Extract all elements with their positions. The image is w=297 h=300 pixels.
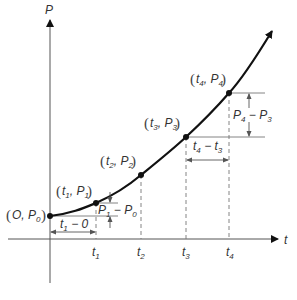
svg-text:t4, P4: t4, P4 <box>196 72 223 88</box>
svg-text:(: ( <box>190 71 195 88</box>
tick-t2: t2 <box>137 245 145 261</box>
x-tick-labels: t1 t2 t3 t4 <box>92 245 234 261</box>
annotation-delta-t1: t1 − 0 <box>51 217 95 233</box>
point-label-p1: ( t1, P1 ) <box>56 183 92 200</box>
tick-t3: t3 <box>182 245 190 261</box>
x-axis-label: t <box>284 233 288 247</box>
annotation-delta-p1: P1 − P0 <box>98 192 137 228</box>
svg-text:(: ( <box>144 115 149 132</box>
svg-text:): ) <box>87 183 92 200</box>
svg-text:): ) <box>221 71 226 88</box>
svg-text:(: ( <box>56 183 61 200</box>
tick-t1: t1 <box>92 245 100 261</box>
svg-text:(: ( <box>6 207 11 224</box>
svg-text:P1 − P0: P1 − P0 <box>98 203 137 219</box>
point-label-p3: ( t3, P3 ) <box>144 115 180 132</box>
svg-text:): ) <box>131 153 136 170</box>
time-position-diagram: P t ( O, P0 ) ( t1, P1 ) ( t2, P2 ) <box>0 0 297 300</box>
svg-text:t1 − 0: t1 − 0 <box>60 217 89 233</box>
tick-t4: t4 <box>226 245 234 261</box>
svg-text:t1, P1: t1, P1 <box>62 184 89 200</box>
point-label-p0: ( O, P0 ) <box>6 207 46 224</box>
svg-text:t3, P3: t3, P3 <box>150 116 177 132</box>
point-p4 <box>226 90 232 96</box>
y-axis-label: P <box>45 3 53 17</box>
svg-text:P4 − P3: P4 − P3 <box>233 108 272 124</box>
point-label-p2: ( t2, P2 ) <box>100 153 136 170</box>
svg-text:t2, P2: t2, P2 <box>106 154 133 170</box>
data-points <box>47 90 232 219</box>
svg-text:): ) <box>175 115 180 132</box>
point-p3 <box>183 134 189 140</box>
point-p2 <box>138 172 144 178</box>
point-label-p4: ( t4, P4 ) <box>190 71 226 88</box>
svg-text:O, P0: O, P0 <box>12 208 41 224</box>
svg-text:(: ( <box>100 153 105 170</box>
annotation-delta-t4: t4 − t3 <box>187 139 228 160</box>
annotation-delta-p4: P4 − P3 <box>233 94 272 136</box>
svg-text:): ) <box>41 207 46 224</box>
point-p0 <box>47 213 53 219</box>
svg-text:t4 − t3: t4 − t3 <box>193 139 223 155</box>
